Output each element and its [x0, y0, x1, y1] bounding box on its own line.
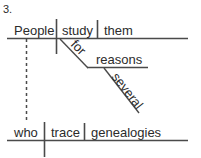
- relative-verb-label: trace: [51, 125, 80, 140]
- main-subject-label: People: [14, 23, 54, 38]
- relative-object-label: genealogies: [91, 125, 162, 140]
- item-number: 3.: [3, 3, 12, 15]
- relative-subject-label: who: [13, 125, 38, 140]
- diagram-canvas: 3. People study them for reasons several: [0, 0, 201, 158]
- sentence-diagram-figure: 3. People study them for reasons several: [0, 0, 201, 158]
- modifier-label: several: [109, 70, 147, 112]
- main-object-label: them: [104, 23, 133, 38]
- preposition-label: for: [68, 37, 90, 59]
- main-verb-label: study: [62, 23, 94, 38]
- preposition-object-label: reasons: [96, 52, 143, 67]
